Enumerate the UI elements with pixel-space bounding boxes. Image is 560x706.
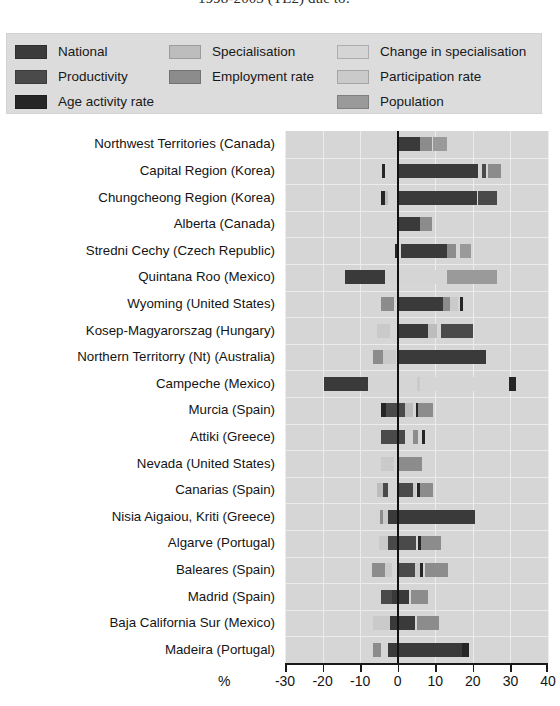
bar-segment[interactable] <box>441 324 473 338</box>
bar-row[interactable] <box>285 324 548 338</box>
bar-segment[interactable] <box>425 563 449 577</box>
bar-segment[interactable] <box>398 483 413 497</box>
bar-segment[interactable] <box>381 590 392 604</box>
bar-segment[interactable] <box>509 377 517 391</box>
bar-segment[interactable] <box>421 536 441 550</box>
bar-row[interactable] <box>285 217 548 231</box>
bar-row[interactable] <box>285 643 548 657</box>
legend-item: Change in specialisation <box>337 39 526 64</box>
bar-segment[interactable] <box>420 563 423 577</box>
bar-segment[interactable] <box>398 324 428 338</box>
bar-segment[interactable] <box>388 510 474 524</box>
bar-segment[interactable] <box>379 536 388 550</box>
bar-segment[interactable] <box>405 403 413 417</box>
bar-segment[interactable] <box>381 457 394 471</box>
bar-segment[interactable] <box>417 616 440 630</box>
bar-segment[interactable] <box>398 297 443 311</box>
bar-segment[interactable] <box>488 164 501 178</box>
bar-segment[interactable] <box>383 350 396 364</box>
bar-segment[interactable] <box>482 164 486 178</box>
bar-segment[interactable] <box>398 217 421 231</box>
bar-segment[interactable] <box>398 191 477 205</box>
bar-segment[interactable] <box>422 430 425 444</box>
bar-segment[interactable] <box>385 563 393 577</box>
legend-swatch-icon <box>337 45 369 59</box>
bar-row[interactable] <box>285 137 548 151</box>
legend-label: Participation rate <box>380 70 481 84</box>
category-label: Alberta (Canada) <box>174 217 275 230</box>
bar-row[interactable] <box>285 590 548 604</box>
bar-segment[interactable] <box>385 270 447 284</box>
bar-segment[interactable] <box>420 483 434 497</box>
bar-segment[interactable] <box>420 137 431 151</box>
bar-row[interactable] <box>285 616 548 630</box>
bar-segment[interactable] <box>398 137 421 151</box>
bar-segment[interactable] <box>373 643 381 657</box>
bar-segment[interactable] <box>433 137 446 151</box>
bar-segment[interactable] <box>401 244 446 258</box>
bar-row[interactable] <box>285 457 548 471</box>
bar-segment[interactable] <box>345 270 384 284</box>
bar-segment[interactable] <box>398 457 422 471</box>
bar-segment[interactable] <box>373 350 382 364</box>
bar-segment[interactable] <box>388 643 461 657</box>
bar-row[interactable] <box>285 244 548 258</box>
bar-segment[interactable] <box>388 536 416 550</box>
bar-segment[interactable] <box>447 270 498 284</box>
bar-segment[interactable] <box>368 377 417 391</box>
bar-segment[interactable] <box>372 563 384 577</box>
bar-segment[interactable] <box>450 297 458 311</box>
bar-segment[interactable] <box>447 244 456 258</box>
bar-segment[interactable] <box>390 616 414 630</box>
bar-segment[interactable] <box>324 377 367 391</box>
bar-row[interactable] <box>285 536 548 550</box>
bar-segment[interactable] <box>385 191 388 205</box>
bar-segment[interactable] <box>373 616 390 630</box>
value-gridline <box>548 131 549 663</box>
bar-row[interactable] <box>285 403 548 417</box>
bar-segment[interactable] <box>383 483 389 497</box>
axis-tick-label: 40 <box>532 673 560 689</box>
legend-label: Productivity <box>58 70 128 84</box>
bar-segment[interactable] <box>420 217 431 231</box>
bar-segment[interactable] <box>381 643 389 657</box>
bar-segment[interactable] <box>381 297 394 311</box>
bar-row[interactable] <box>285 164 548 178</box>
bar-segment[interactable] <box>413 483 417 497</box>
bar-row[interactable] <box>285 191 548 205</box>
bar-row[interactable] <box>285 483 548 497</box>
bar-segment[interactable] <box>428 324 437 338</box>
legend-item: Productivity <box>15 64 154 89</box>
bar-segment[interactable] <box>398 164 479 178</box>
bar-segment[interactable] <box>381 430 405 444</box>
bar-segment[interactable] <box>420 377 508 391</box>
bar-segment[interactable] <box>478 191 497 205</box>
legend-swatch-icon <box>15 70 47 84</box>
bar-row[interactable] <box>285 270 548 284</box>
category-label: Capital Region (Korea) <box>140 164 275 177</box>
bar-rows <box>285 131 548 663</box>
bar-row[interactable] <box>285 350 548 364</box>
legend-item: Participation rate <box>337 64 526 89</box>
category-label: Madrid (Spain) <box>188 590 275 603</box>
bar-segment[interactable] <box>398 350 486 364</box>
bar-segment[interactable] <box>413 430 419 444</box>
bar-segment[interactable] <box>462 643 470 657</box>
bar-segment[interactable] <box>460 297 464 311</box>
bar-segment[interactable] <box>392 590 409 604</box>
bar-segment[interactable] <box>418 403 433 417</box>
bar-segment[interactable] <box>377 324 390 338</box>
bar-segment[interactable] <box>382 164 385 178</box>
bar-row[interactable] <box>285 510 548 524</box>
category-label: Attiki (Greece) <box>190 430 275 443</box>
bar-segment[interactable] <box>411 590 428 604</box>
legend-item: Age activity rate <box>15 89 154 114</box>
bar-row[interactable] <box>285 297 548 311</box>
bar-row[interactable] <box>285 430 548 444</box>
bar-segment[interactable] <box>460 244 471 258</box>
bar-row[interactable] <box>285 377 548 391</box>
bar-row[interactable] <box>285 563 548 577</box>
legend-column-3: Change in specialisationParticipation ra… <box>337 39 526 114</box>
bar-segment[interactable] <box>443 297 451 311</box>
bar-segment[interactable] <box>398 563 415 577</box>
